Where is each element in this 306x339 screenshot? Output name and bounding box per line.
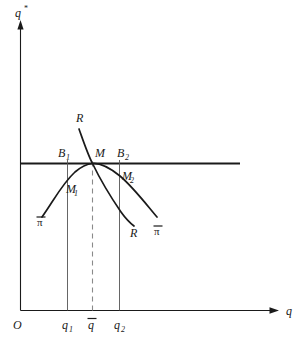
y-axis-label-superscript: * [24,4,28,13]
tick-label-qbar: q [88,318,97,332]
label-R-bottom: R [129,226,138,240]
x-axis-arrowhead [270,307,280,314]
label-pi-bar-right: π [154,225,163,237]
tick-label-q1-subscript: 1 [69,325,73,334]
label-B2: B [117,146,125,160]
label-B1: B [58,146,66,160]
x-axis-label: q [286,304,292,318]
label-M: M [94,146,106,160]
tick-label-qbar-glyph: q [88,318,94,332]
y-axis-label: q [15,6,21,20]
pi-bar-curve [42,163,157,217]
label-pi-bar-left: π [37,216,46,228]
label-pi-bar-right-glyph: π [154,225,160,237]
figure-container: q * q O B 1 M B 2 [0,0,306,339]
label-M2-subscript: 2 [130,176,134,185]
label-B1-subscript: 1 [66,153,70,162]
label-M1-subscript: 1 [74,189,78,198]
vertical-reference-lines-group [68,158,120,311]
curves-group [42,129,157,226]
label-B2-subscript: 2 [125,153,129,162]
label-pi-bar-left-glyph: π [37,216,43,228]
tick-label-q2-subscript: 2 [121,325,125,334]
economics-diagram: q * q O B 1 M B 2 [0,0,306,339]
tick-label-q1: q [62,318,68,332]
origin-label: O [13,318,22,332]
axis-labels-group: q * q O [13,4,292,332]
y-axis-arrowhead [17,20,23,30]
axes-group [17,20,279,314]
tick-label-q2: q [114,318,120,332]
label-R-top: R [75,111,84,125]
tick-labels-group: q 1 q q 2 [62,318,125,334]
